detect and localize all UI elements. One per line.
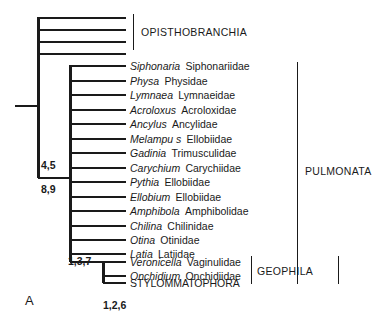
taxon-genus: Pythia bbox=[130, 176, 159, 188]
node-label-1-3-7: 1,3,7 bbox=[68, 255, 91, 267]
panel-label-a: A bbox=[25, 293, 34, 308]
taxon-genus: Amphibola bbox=[130, 205, 180, 217]
taxon-label-17: STYLOMMATOPHORA bbox=[130, 278, 240, 289]
taxon-label-9: Pythia Ellobiidae bbox=[130, 177, 210, 188]
taxon-label-5: Ancylus Ancylidae bbox=[130, 119, 218, 130]
taxon-family: Ellobiidae bbox=[170, 191, 221, 203]
taxon-family: Vaginulidae bbox=[182, 256, 241, 268]
taxon-genus: Gadinia bbox=[130, 147, 166, 159]
node-label-8-9: 8,9 bbox=[41, 183, 56, 195]
taxon-label-6: Melampu s Ellobiidae bbox=[130, 134, 232, 145]
taxon-genus: Melampu s bbox=[130, 133, 181, 145]
taxon-label-3: Lymnaea Lymnaeidae bbox=[130, 90, 235, 101]
taxon-genus: Ancylus bbox=[130, 118, 167, 130]
taxon-family: Physidae bbox=[159, 75, 207, 87]
taxon-label-8: Carychium Carychiidae bbox=[130, 163, 241, 174]
taxon-family: Ancylidae bbox=[167, 118, 218, 130]
clade-label-opisthobranchia: OPISTHOBRANCHIA bbox=[141, 26, 247, 38]
taxon-family: Otinidae bbox=[155, 234, 199, 246]
taxon-family: Lymnaeidae bbox=[173, 89, 235, 101]
taxon-label-12: Chilina Chilinidae bbox=[130, 221, 213, 232]
taxon-family: Ellobiidae bbox=[159, 176, 210, 188]
taxon-label-11: Amphibola Amphibolidae bbox=[130, 206, 249, 217]
taxon-genus: STYLOMMATOPHORA bbox=[130, 277, 240, 289]
node-label-4-5: 4,5 bbox=[41, 159, 56, 171]
taxon-family: Siphonariidae bbox=[180, 60, 249, 72]
clade-label-geophila: GEOPHILA bbox=[257, 265, 313, 277]
taxon-label-4: Acroloxus Acroloxidae bbox=[130, 105, 236, 116]
taxon-label-2: Physa Physidae bbox=[130, 76, 208, 87]
taxon-genus: Veronicella bbox=[130, 256, 182, 268]
taxon-label-15: Veronicella Vaginulidae bbox=[130, 257, 241, 268]
taxon-family: Trimusculidae bbox=[166, 147, 236, 159]
taxon-family: Carychiidae bbox=[180, 162, 241, 174]
taxon-label-13: Otina Otinidae bbox=[130, 235, 199, 246]
taxon-genus: Acroloxus bbox=[130, 104, 176, 116]
taxon-family: Amphibolidae bbox=[180, 205, 249, 217]
taxon-family: Ellobiidae bbox=[181, 133, 232, 145]
taxon-genus: Physa bbox=[130, 75, 159, 87]
taxon-genus: Lymnaea bbox=[130, 89, 173, 101]
taxon-genus: Chilina bbox=[130, 220, 162, 232]
node-label-1-2-6: 1,2,6 bbox=[103, 299, 126, 311]
taxon-label-1: Siphonaria Siphonariidae bbox=[130, 61, 250, 72]
taxon-label-7: Gadinia Trimusculidae bbox=[130, 148, 236, 159]
taxon-family: Acroloxidae bbox=[176, 104, 236, 116]
taxon-genus: Ellobium bbox=[130, 191, 170, 203]
taxon-genus: Carychium bbox=[130, 162, 180, 174]
taxon-family: Chilinidae bbox=[162, 220, 213, 232]
taxon-genus: Otina bbox=[130, 234, 155, 246]
taxon-label-10: Ellobium Ellobiidae bbox=[130, 192, 221, 203]
taxon-genus: Siphonaria bbox=[130, 60, 180, 72]
clade-label-pulmonata: PULMONATA bbox=[305, 165, 371, 177]
